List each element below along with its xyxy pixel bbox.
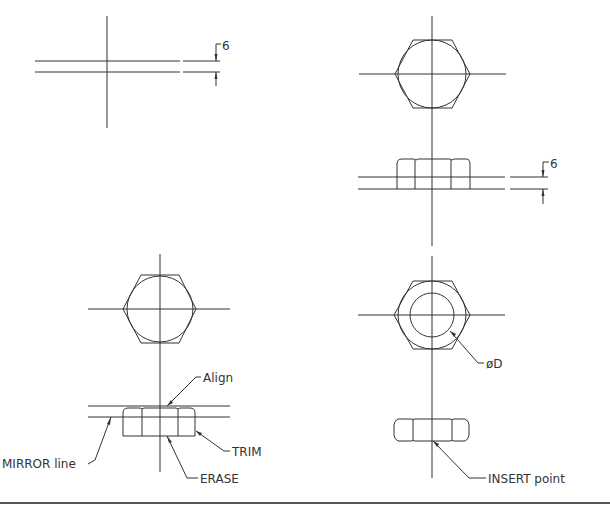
nut-side-view [123, 408, 195, 436]
label-erase: ERASE [200, 472, 239, 486]
panel-step4: øD INSERT point [358, 256, 565, 486]
label-diameter: øD [486, 357, 503, 371]
label-align: Align [203, 371, 233, 385]
panel-step3: Align MIRROR line TRIM ERASE [2, 254, 262, 486]
nut-side-view [397, 159, 470, 189]
label-mirror-line: MIRROR line [2, 457, 76, 471]
dimension-text: 6 [222, 39, 230, 53]
dimension-text: 6 [550, 157, 558, 171]
dimension-6: 6 [215, 39, 230, 86]
drafting-diagram: 6 6 [0, 0, 610, 507]
label-insert-point: INSERT point [488, 472, 565, 486]
label-trim: TRIM [231, 445, 262, 459]
panel-step2: 6 [358, 16, 558, 246]
dimension-6: 6 [542, 157, 558, 204]
panel-step1: 6 [35, 16, 230, 128]
